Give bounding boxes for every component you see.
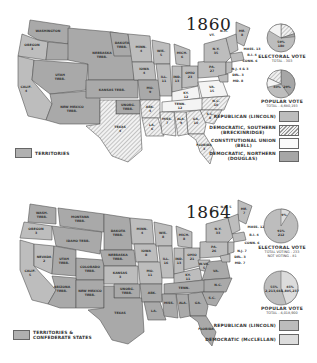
label-wash: WASHINGTON bbox=[36, 29, 61, 33]
label-ohio-v: 21 bbox=[190, 257, 194, 261]
label-mass: MASS. 13 bbox=[244, 47, 261, 51]
label-mo-v: 11 bbox=[148, 273, 152, 277]
label-va: VA. bbox=[213, 269, 219, 273]
label-utah-terr: TERR. bbox=[59, 261, 70, 265]
label-dak-terr: TERR. bbox=[113, 233, 124, 237]
legend-swatch-northern-democrat bbox=[279, 151, 299, 162]
label-dak-terr: TERR. bbox=[117, 45, 128, 49]
label-wva-v: 5 bbox=[203, 266, 205, 270]
label-unorg-terr: TERR. bbox=[123, 107, 134, 111]
label-tenn-v: 12 bbox=[178, 106, 182, 110]
label-unorg-terr: TERR. bbox=[122, 291, 133, 295]
pie-electoral-1860: 59% 180 bbox=[267, 24, 295, 52]
legend-swatch-territories-confederate bbox=[13, 330, 30, 340]
label-nm-terr: TERR. bbox=[67, 109, 78, 113]
label-nm-terr: TERR. bbox=[85, 293, 96, 297]
label-ill-v: 11 bbox=[162, 79, 166, 83]
label-miss: MISS. bbox=[164, 301, 174, 305]
legend-constitutional-union-1860: CONSTITUTIONAL UNION(BELL) bbox=[200, 137, 299, 149]
legend-territories-1864: TERRITORIES &CONFEDERATE STATES bbox=[13, 330, 92, 340]
label-la: LA. bbox=[151, 309, 157, 313]
svg-text:212: 212 bbox=[278, 233, 285, 237]
legend-swatch-southern-democrat bbox=[279, 125, 299, 136]
label-ark: ARK. bbox=[148, 291, 157, 295]
label-ohio-v: 23 bbox=[188, 75, 192, 79]
svg-text:1,805,237: 1,805,237 bbox=[281, 289, 299, 293]
region-nj bbox=[228, 242, 234, 254]
region-mississippi bbox=[162, 294, 178, 318]
legend-label: DEMOCRATIC, SOUTHERN(BRECKINRIDGE) bbox=[209, 125, 276, 135]
legend-label: REPUBLICAN (LINCOLN) bbox=[214, 323, 276, 328]
svg-text:9%: 9% bbox=[281, 213, 287, 217]
label-ny-v: 35 bbox=[214, 51, 218, 55]
label-wash-terr: TERR. bbox=[37, 215, 48, 219]
label-neb-terr: TERR. bbox=[113, 257, 124, 261]
legend-territories-label: TERRITORIES bbox=[35, 151, 70, 156]
map-panel-1860: WASHINGTON OREGON 3 CALIF. 4 UTAH TERR. … bbox=[0, 0, 317, 180]
label-nj: N.J. 7 bbox=[237, 249, 247, 253]
legend-southern-democrat-1860: DEMOCRATIC, SOUTHERN(BRECKINRIDGE) bbox=[200, 124, 299, 136]
label-wis-v: 5 bbox=[160, 53, 162, 57]
label-pa-v: 27 bbox=[210, 69, 214, 73]
map-panel-1864: WASH. TERR. OREGON 3 CALIF. 5 NEVADA 2 M… bbox=[0, 180, 317, 363]
legend-label: CONSTITUTIONAL UNION(BELL) bbox=[211, 138, 276, 148]
legend-northern-democrat-1860: DEMOCRATIC, NORTHERN(DOUGLAS) bbox=[200, 150, 299, 162]
legend-swatch-territories bbox=[15, 148, 32, 158]
label-ariz-terr: TERR. bbox=[57, 289, 68, 293]
label-tenn: TENN. bbox=[179, 286, 190, 290]
legend-swatch-constitutional-union bbox=[279, 138, 299, 149]
label-nj: N.J. 4 & 3 bbox=[232, 67, 249, 71]
label-md: MD. 8 bbox=[233, 79, 244, 83]
region-alabama bbox=[176, 294, 190, 318]
popular-vote-total-1864: TOTAL - 4,018,900 bbox=[252, 311, 312, 315]
label-mass: MASS. 12 bbox=[248, 225, 265, 229]
label-va-v: 15 bbox=[210, 89, 214, 93]
label-nc: N.C. bbox=[214, 283, 221, 287]
label-ala: ALA. bbox=[179, 301, 187, 305]
legend-territories-1860: TERRITORIES bbox=[15, 148, 70, 158]
legend-label: DEMOCRATIC, NORTHERN(DOUGLAS) bbox=[209, 151, 276, 161]
year-title-1864: 1864 bbox=[186, 202, 231, 222]
pie-electoral-1864: 9% 91% 212 bbox=[264, 209, 298, 243]
electoral-vote-total-1860: TOTAL - 303 bbox=[252, 59, 312, 63]
label-ky-v: 12 bbox=[184, 95, 188, 99]
label-colo-terr: TERR. bbox=[85, 269, 96, 273]
legend-republican-1860: REPUBLICAN (LINCOLN) bbox=[200, 110, 299, 122]
legend-swatch-republican bbox=[279, 111, 299, 122]
label-calif-v: 5 bbox=[29, 273, 31, 277]
label-miss-v: 7 bbox=[166, 121, 168, 125]
legend-swatch-republican bbox=[279, 320, 299, 331]
label-sc: S.C. bbox=[208, 296, 215, 300]
label-ny-v: 33 bbox=[216, 231, 220, 235]
svg-text:29%: 29% bbox=[283, 85, 291, 89]
year-title-1860: 1860 bbox=[186, 14, 231, 34]
label-pa-v: 26 bbox=[212, 249, 217, 253]
pie-popular-1860: 40% 29% bbox=[267, 70, 295, 98]
label-ind-v: 13 bbox=[175, 79, 179, 83]
popular-vote-total-1860: TOTAL - 4,680,193 bbox=[252, 104, 312, 108]
label-del: DEL. 3 bbox=[234, 255, 245, 259]
label-ind-v: 13 bbox=[177, 261, 181, 265]
label-idaho: IDAHO TERR. bbox=[66, 239, 89, 243]
label-nc-v: 10 bbox=[214, 103, 219, 107]
label-nev-v: 2 bbox=[43, 259, 45, 263]
svg-text:40%: 40% bbox=[273, 85, 281, 89]
label-mont-terr: TERR. bbox=[75, 219, 86, 223]
electoral-not-voting-1864: NOT VOTING - 81 bbox=[252, 254, 312, 258]
label-kan-v: 3 bbox=[119, 275, 121, 279]
legend-swatch-democratic bbox=[279, 334, 299, 345]
label-ill-v: 16 bbox=[164, 261, 169, 265]
pie-popular-1864: 55% 2,213,665 45% 1,805,237 bbox=[264, 271, 299, 305]
label-ky-v: 11 bbox=[186, 277, 190, 281]
label-ri: R.I. 4 bbox=[249, 233, 259, 237]
svg-text:180: 180 bbox=[278, 44, 285, 48]
label-kan: KANSAS TERR. bbox=[99, 88, 125, 92]
label-ga-v: 10 bbox=[194, 121, 199, 125]
label-me-v: 7 bbox=[243, 211, 245, 215]
legend-label: REPUBLICAN (LINCOLN) bbox=[214, 114, 276, 119]
label-del: DEL. 3 bbox=[232, 73, 243, 77]
region-washington-east bbox=[46, 42, 70, 60]
label-neb-terr: TERR. bbox=[97, 55, 108, 59]
label-texas: TEXAS bbox=[114, 311, 126, 315]
label-ore-v: 3 bbox=[35, 231, 37, 235]
